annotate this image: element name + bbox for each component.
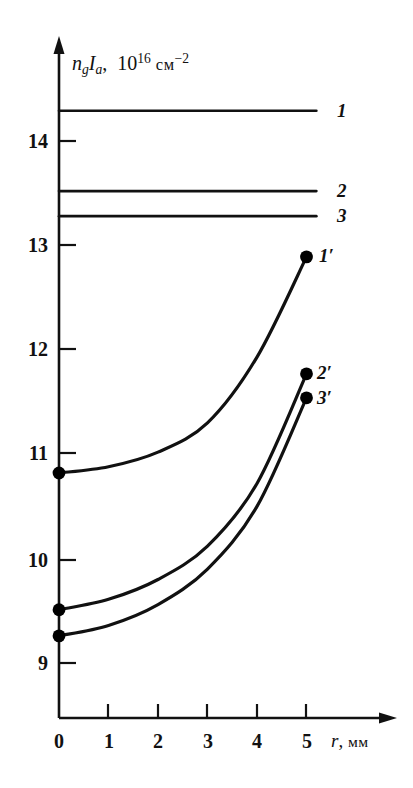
plot-area (0, 0, 413, 788)
data-series-layer (53, 111, 317, 643)
data-point-marker-2-prime-1 (300, 367, 313, 380)
data-point-marker-3-prime-0 (53, 629, 66, 642)
data-point-marker-1-prime-0 (53, 467, 66, 480)
y-axis-arrow-icon (54, 36, 65, 54)
data-point-marker-2-prime-0 (53, 603, 66, 616)
x-axis (59, 713, 397, 724)
figure-container: ngIa, 1016 см−2 14 13 12 11 10 9 0 1 2 3… (0, 0, 413, 788)
series-path-1-prime (59, 257, 307, 473)
x-axis-arrow-icon (379, 713, 397, 724)
x-axis-ticks (108, 704, 306, 718)
y-axis-ticks (59, 141, 76, 663)
series-path-3-prime (59, 398, 307, 636)
series-path-2-prime (59, 374, 307, 610)
data-point-marker-1-prime-1 (300, 250, 313, 263)
data-point-marker-3-prime-1 (300, 391, 313, 404)
